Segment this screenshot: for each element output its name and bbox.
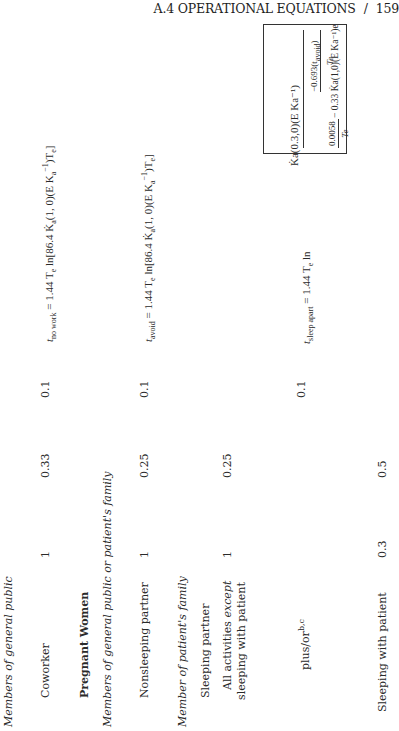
section-title: A.4 OPERATIONAL EQUATIONS (154, 1, 356, 16)
row-label-all-activities-line1: All activities except (222, 581, 234, 690)
page-header: A.4 OPERATIONAL EQUATIONS/159 (154, 1, 399, 16)
nonsleeping-col1: 1 (139, 551, 151, 558)
coworker-col2: 0.33 (40, 454, 52, 479)
row-label-nonsleeping-partner: Nonsleeping partner (139, 582, 151, 698)
row-label-plus-or: plus/orb,c (296, 619, 312, 670)
nonsleeping-col3: 0.1 (139, 381, 151, 399)
row-label-sleeping-with-patient: Sleeping with patient (377, 592, 389, 712)
subgroup-patients-family: Member of patient's family (177, 576, 189, 727)
sleeping-with-patient-col2: 0.5 (377, 461, 389, 479)
denominator-remainder: − 0.33 K̇a(1,0)(E Ka⁻¹)e (329, 24, 341, 118)
denominator-fraction: 0.0058Te (326, 119, 351, 148)
bracket-left-vertical (263, 24, 264, 154)
nonsleeping-col2: 0.25 (139, 454, 151, 479)
exponent-numerator: −0.693(tavoid) (308, 40, 324, 92)
coworker-col1: 1 (40, 551, 52, 558)
plus-or-col3: 0.1 (296, 381, 308, 399)
header-separator: / (364, 1, 368, 16)
sleeping-with-patient-col1: 0.3 (377, 541, 389, 559)
coworker-col3: 0.1 (40, 381, 52, 399)
bracket-bottom (263, 153, 347, 154)
exponent-fraction-bar (320, 30, 321, 92)
equation-no-work: tno work = 1.44 Te ln[86.4 K̇a(1, 0)(E K… (40, 146, 60, 342)
equation-avoid: tavoid = 1.44 Te ln[86.4 K̇a(1, 0)(E Ka−… (139, 154, 159, 342)
main-fraction-bar (303, 30, 304, 148)
subgroup-members-general-public: Members of general public (3, 576, 15, 727)
row-label-coworker: Coworker (40, 643, 52, 698)
page-number: 159 (376, 1, 399, 16)
row-label-sleeping-partner: Sleeping partner (200, 604, 212, 698)
all-activities-col1: 1 (222, 551, 234, 558)
equation-sleep-apart-lhs: tsleep apart = 1.44 Te ln (300, 251, 317, 344)
subgroup-general-public-or-family: Members of general public or patient's f… (102, 471, 114, 727)
row-label-all-activities-line2: sleeping with patient (236, 582, 248, 700)
group-pregnant-women: Pregnant Women (79, 592, 91, 698)
equation-sleep-apart-numerator: K̇a(0.3,0)(E Ka⁻¹) (288, 85, 300, 166)
all-activities-col2: 0.25 (222, 454, 234, 479)
